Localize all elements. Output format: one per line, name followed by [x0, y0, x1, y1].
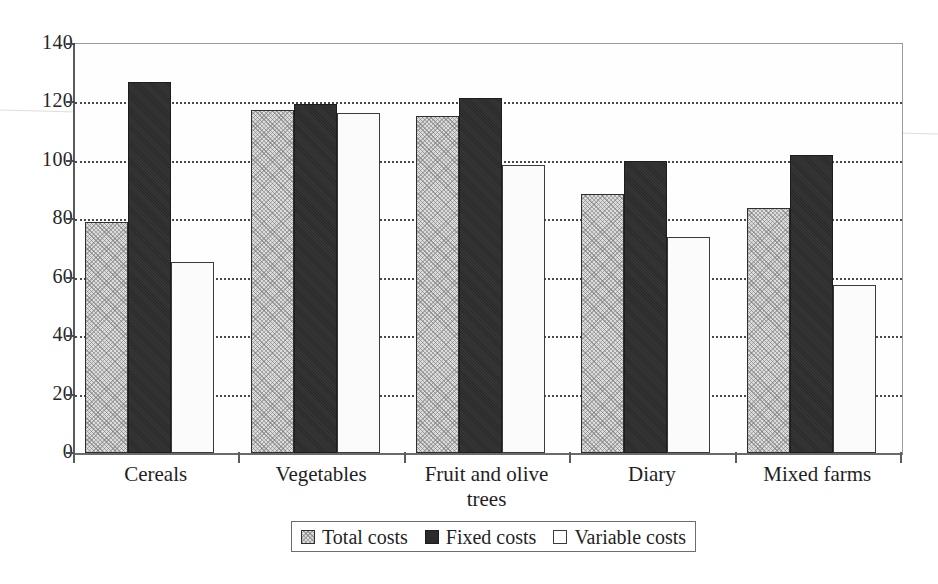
bar-total[interactable] — [747, 208, 790, 453]
y-tick-label: 20 — [13, 383, 73, 403]
bar-total[interactable] — [581, 194, 624, 453]
bar-chart: 020406080100120140 CerealsVegetablesFrui… — [0, 0, 938, 584]
bar-fixed[interactable] — [128, 82, 171, 453]
legend-label: Variable costs — [574, 527, 686, 547]
bar-total[interactable] — [416, 116, 459, 453]
x-tick-mark — [900, 452, 902, 463]
y-tick-mark — [66, 277, 75, 279]
y-tick-mark — [66, 101, 75, 103]
y-tick-mark — [66, 335, 75, 337]
bar-group — [251, 44, 380, 453]
bar-variable[interactable] — [667, 237, 710, 453]
y-tick-label: 40 — [13, 324, 73, 344]
y-tick-label: 80 — [13, 207, 73, 227]
legend-label: Fixed costs — [446, 527, 537, 547]
legend-item-variable[interactable]: Variable costs — [553, 527, 686, 547]
x-axis-label-vegetables: Vegetables — [238, 462, 403, 487]
legend-label: Total costs — [322, 527, 408, 547]
bar-group — [416, 44, 545, 453]
bar-total[interactable] — [85, 222, 128, 453]
plot-area — [73, 43, 903, 455]
bar-group — [85, 44, 214, 453]
bar-variable[interactable] — [337, 113, 380, 453]
y-tick-mark — [66, 218, 75, 220]
y-tick-label: 140 — [13, 32, 73, 52]
bar-group — [581, 44, 710, 453]
legend-item-fixed[interactable]: Fixed costs — [425, 527, 537, 547]
chart-legend: Total costsFixed costsVariable costs — [291, 521, 696, 552]
x-axis-label-fruit-and-olive-trees: Fruit and olive trees — [404, 462, 569, 512]
bar-fixed[interactable] — [459, 98, 502, 453]
x-axis-label-diary: Diary — [569, 462, 734, 487]
bar-fixed[interactable] — [294, 104, 337, 453]
legend-item-total[interactable]: Total costs — [301, 527, 408, 547]
y-axis: 020406080100120140 — [0, 0, 73, 584]
bar-total[interactable] — [251, 110, 294, 453]
legend-swatch-variable-icon — [553, 530, 567, 544]
y-tick-label: 120 — [13, 90, 73, 110]
y-tick-mark — [66, 394, 75, 396]
y-tick-mark — [66, 43, 75, 45]
y-tick-label: 100 — [13, 149, 73, 169]
bar-fixed[interactable] — [790, 155, 833, 453]
bar-group — [747, 44, 876, 453]
bar-variable[interactable] — [171, 262, 214, 453]
y-tick-mark — [66, 160, 75, 162]
y-tick-label: 60 — [13, 266, 73, 286]
y-tick-label: 0 — [13, 441, 73, 461]
x-axis-label-mixed-farms: Mixed farms — [735, 462, 900, 487]
legend-swatch-total-icon — [301, 530, 315, 544]
bar-variable[interactable] — [833, 285, 876, 453]
bar-fixed[interactable] — [624, 161, 667, 453]
x-axis-label-cereals: Cereals — [73, 462, 238, 487]
bar-variable[interactable] — [502, 165, 545, 453]
legend-swatch-fixed-icon — [425, 530, 439, 544]
